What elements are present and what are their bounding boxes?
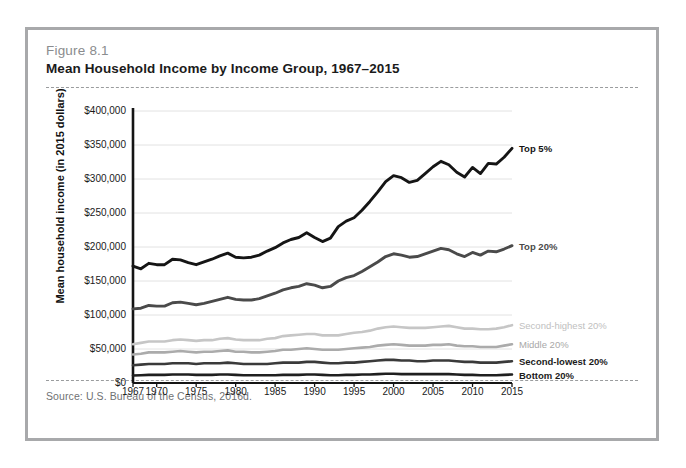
x-tick-label: 1970 [146, 386, 168, 397]
series-label-bottom-20: Bottom 20% [519, 369, 574, 380]
x-tick-label: 2015 [501, 386, 523, 397]
series-line [133, 148, 512, 268]
x-tick-label: 1980 [225, 386, 247, 397]
x-tick-label: 1990 [303, 386, 325, 397]
series-line [133, 325, 512, 344]
x-tick-label: 1985 [264, 386, 286, 397]
series-label-top-20: Top 20% [519, 240, 557, 251]
x-tick-label: 2005 [422, 386, 444, 397]
series-line [133, 374, 512, 376]
x-tick-label: 1975 [185, 386, 207, 397]
x-tick-label: 2000 [382, 386, 404, 397]
x-tick-label: 1995 [343, 386, 365, 397]
x-axis-ticks: 1967197019751980198519901995200020052010… [28, 386, 662, 402]
series-label-middle-20: Middle 20% [519, 339, 569, 350]
x-tick-label: 1967 [122, 386, 144, 397]
x-tick-label: 2010 [461, 386, 483, 397]
series-label-second-lowest-20: Second-lowest 20% [519, 356, 608, 367]
series-line [133, 360, 512, 365]
chart-plot-area: Mean household income (in 2015 dollars) … [28, 30, 662, 444]
figure-card: Figure 8.1 Mean Household Income by Inco… [25, 27, 659, 441]
series-line [133, 246, 512, 309]
series-label-second-highest-20: Second-highest 20% [519, 320, 607, 331]
series-label-top-5: Top 5% [519, 143, 552, 154]
line-chart-svg [28, 30, 662, 444]
